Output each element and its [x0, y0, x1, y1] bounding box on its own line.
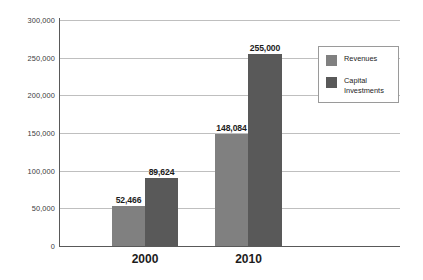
legend-swatch-capital-investments [326, 77, 337, 88]
legend: Revenues Capital Investments [318, 46, 399, 103]
data-label-capital-investments-2010: 255,000 [248, 43, 282, 53]
category-label-2010: 2010 [215, 252, 282, 266]
y-tick-label: 50,000 [3, 204, 55, 213]
data-label-revenues-2000: 52,466 [112, 195, 145, 205]
y-tick-label: 150,000 [3, 129, 55, 138]
y-tick-label: 200,000 [3, 91, 55, 100]
x-axis-baseline [60, 246, 400, 247]
y-tick-label: 300,000 [3, 16, 55, 25]
legend-swatch-revenues [326, 55, 337, 66]
y-tick-label: 0 [3, 242, 55, 251]
bar-revenues-2010 [215, 134, 248, 246]
legend-label-revenues: Revenues [344, 54, 377, 64]
legend-label-capital-investments: Capital Investments [344, 76, 384, 95]
bar-revenues-2000 [112, 206, 145, 246]
bar-capital-investments-2010 [248, 54, 282, 246]
y-tick-label: 100,000 [3, 166, 55, 175]
y-axis-tick-labels: 300,000 250,000 200,000 150,000 100,000 … [0, 0, 55, 280]
y-tick-label: 250,000 [3, 53, 55, 62]
gridline [60, 20, 400, 21]
category-label-2000: 2000 [112, 252, 178, 266]
legend-item-capital-investments: Capital Investments [326, 76, 384, 95]
data-label-revenues-2010: 148,084 [215, 123, 248, 133]
bar-capital-investments-2000 [145, 178, 178, 246]
bar-chart: 300,000 250,000 200,000 150,000 100,000 … [0, 0, 423, 280]
legend-item-revenues: Revenues [326, 54, 377, 66]
data-label-capital-investments-2000: 89,624 [145, 167, 178, 177]
